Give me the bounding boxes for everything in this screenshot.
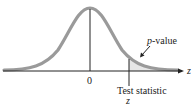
mean-label: 0 — [87, 75, 92, 86]
axis-label: z — [186, 65, 191, 76]
normal-curve-diagram: 0 z p-value Test statistic z — [0, 0, 195, 108]
p-value-rest: -value — [152, 35, 178, 46]
axis-arrow-icon — [178, 69, 184, 74]
test-statistic-label: Test statistic — [117, 85, 167, 96]
p-value-label: p-value — [146, 35, 178, 46]
p-value-arrow — [142, 46, 150, 55]
test-statistic-symbol: z — [125, 95, 130, 106]
